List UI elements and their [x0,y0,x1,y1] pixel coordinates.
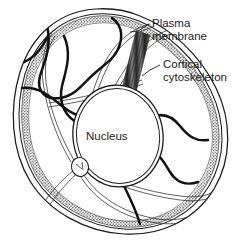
plasma-membrane-label-line1: Plasma [152,17,191,29]
cortical-cytoskeleton-label-line1: Cortical [163,58,202,70]
cell-diagram-figure: Nucleus Plasma membrane Cortical cytoske… [0,0,242,241]
plasma-membrane-label-line2: membrane [152,30,207,42]
plasma-membrane-label: Plasma membrane [152,17,207,42]
cell-diagram-canvas: Nucleus Plasma membrane Cortical cytoske… [0,0,242,241]
nucleus-label: Nucleus [86,130,128,142]
cortical-cytoskeleton-label: Cortical cytoskeleton [163,58,227,83]
cortical-cytoskeleton-label-line2: cytoskeleton [163,71,227,83]
